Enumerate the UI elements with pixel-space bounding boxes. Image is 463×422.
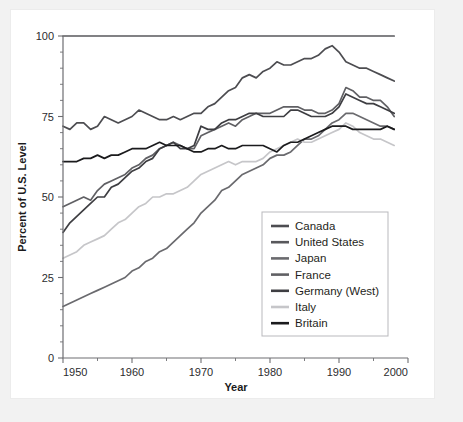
- legend-label-germany-west: Germany (West): [295, 285, 379, 297]
- y-tick-label-0: 0: [48, 352, 54, 364]
- y-tick-label-25: 25: [42, 272, 54, 284]
- y-axis-title: Percent of U.S. Level: [16, 142, 28, 251]
- x-tick-label-1970: 1970: [189, 366, 213, 378]
- x-tick-label-1950: 1950: [63, 366, 87, 378]
- x-tick-label-2000: 2000: [384, 366, 408, 378]
- x-axis-tick-labels: 195019601970198019902000: [63, 366, 408, 378]
- legend-label-japan: Japan: [295, 252, 326, 264]
- legend-label-britain: Britain: [295, 317, 328, 329]
- y-tick-label-50: 50: [42, 191, 54, 203]
- series-line-france: [63, 88, 394, 207]
- series-line-canada: [63, 46, 394, 130]
- x-tick-label-1980: 1980: [258, 366, 282, 378]
- legend-label-united-states: United States: [295, 236, 364, 248]
- series-line-britain: [63, 126, 394, 161]
- y-tick-label-75: 75: [42, 111, 54, 123]
- y-axis-tick-labels: 0255075100: [36, 30, 54, 364]
- y-tick-label-100: 100: [36, 30, 54, 42]
- y-axis-ticks: [58, 36, 63, 358]
- x-tick-label-1960: 1960: [120, 366, 144, 378]
- line-chart: 195019601970198019902000 0255075100 Year…: [0, 0, 463, 422]
- x-tick-label-1990: 1990: [327, 366, 351, 378]
- legend-label-italy: Italy: [295, 301, 316, 313]
- legend-label-canada: Canada: [295, 220, 336, 232]
- x-axis-ticks: [63, 358, 408, 363]
- x-axis-title: Year: [224, 381, 248, 393]
- legend-label-france: France: [295, 269, 331, 281]
- chart-legend: CanadaUnited StatesJapanFranceGermany (W…: [262, 212, 388, 336]
